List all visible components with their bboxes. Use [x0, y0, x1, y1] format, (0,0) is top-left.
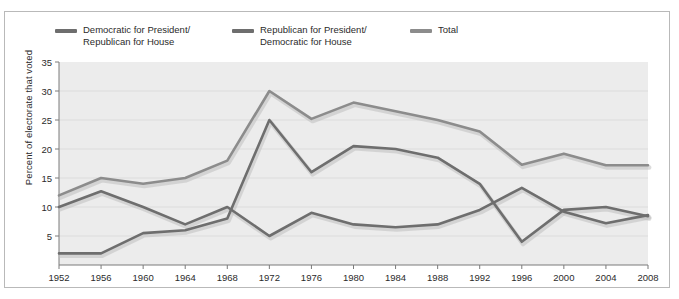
plot-area-wrapper: Percent of electorate that voted 5101520…	[0, 0, 679, 299]
svg-text:1980: 1980	[343, 272, 364, 283]
svg-text:30: 30	[41, 86, 52, 97]
svg-text:1968: 1968	[217, 272, 238, 283]
svg-text:5: 5	[47, 231, 52, 242]
svg-text:25: 25	[41, 115, 52, 126]
svg-text:1996: 1996	[511, 272, 532, 283]
svg-text:10: 10	[41, 202, 52, 213]
svg-text:1984: 1984	[385, 272, 406, 283]
svg-text:1964: 1964	[175, 272, 196, 283]
svg-text:1988: 1988	[427, 272, 448, 283]
svg-text:1976: 1976	[301, 272, 322, 283]
line-chart-svg: 5101520253035195219561960196419681972197…	[0, 0, 679, 299]
svg-text:2000: 2000	[553, 272, 574, 283]
svg-text:2004: 2004	[595, 272, 616, 283]
svg-text:1972: 1972	[259, 272, 280, 283]
svg-text:1952: 1952	[48, 272, 69, 283]
svg-text:2008: 2008	[637, 272, 658, 283]
svg-text:1960: 1960	[133, 272, 154, 283]
chart-figure: Democratic for President/ Republican for…	[0, 0, 679, 299]
svg-text:1992: 1992	[469, 272, 490, 283]
svg-text:20: 20	[41, 144, 52, 155]
svg-text:35: 35	[41, 57, 52, 68]
svg-text:15: 15	[41, 173, 52, 184]
y-axis-title: Percent of electorate that voted	[23, 28, 34, 208]
svg-text:1956: 1956	[91, 272, 112, 283]
